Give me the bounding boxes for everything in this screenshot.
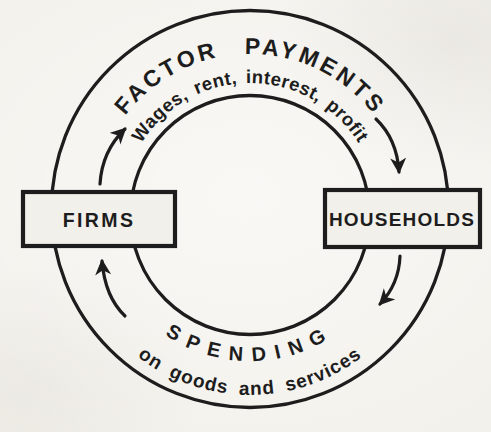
firms-label: FIRMS bbox=[63, 209, 136, 231]
curved-arrow-down-icon bbox=[376, 119, 399, 172]
spending-label: SPENDING bbox=[163, 319, 338, 365]
curved-arrow-down-left-icon bbox=[380, 256, 400, 304]
spending-arc-text: SPENDING bbox=[163, 319, 338, 365]
circular-flow-diagram: FIRMS HOUSEHOLDS FACTOR PAYMENTS Wages, … bbox=[0, 0, 491, 432]
curved-arrow-up-icon bbox=[102, 261, 125, 316]
households-label: HOUSEHOLDS bbox=[329, 209, 475, 230]
curved-arrow-up-right-icon bbox=[100, 129, 125, 184]
scanned-page: FIRMS HOUSEHOLDS FACTOR PAYMENTS Wages, … bbox=[0, 0, 491, 432]
